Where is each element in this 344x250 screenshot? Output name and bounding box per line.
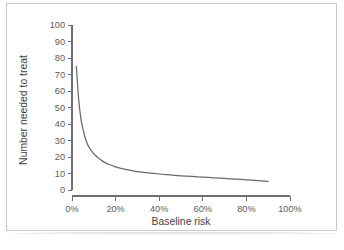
y-tick-label: 30 — [55, 136, 65, 146]
x-tick-label: 20% — [106, 204, 124, 214]
figure-root: 0102030405060708090100 0%20%40%60%80%100… — [0, 0, 344, 250]
y-tick-label: 0 — [60, 185, 65, 195]
x-tick-label: 100% — [278, 204, 302, 214]
x-tick-label: 0% — [65, 204, 78, 214]
x-axis-title: Baseline risk — [152, 216, 212, 227]
y-tick-label: 100 — [50, 20, 65, 30]
chart-plot: 0102030405060708090100 0%20%40%60%80%100… — [0, 0, 344, 250]
x-axis: 0%20%40%60%80%100% — [65, 196, 301, 214]
y-tick-label: 80 — [55, 53, 65, 63]
y-tick-label: 20 — [55, 152, 65, 162]
y-tick-label: 40 — [55, 119, 65, 129]
y-tick-label: 50 — [55, 103, 65, 113]
y-tick-label: 90 — [55, 37, 65, 47]
y-axis: 0102030405060708090100 — [50, 20, 72, 195]
x-tick-label: 60% — [194, 204, 212, 214]
y-tick-label: 70 — [55, 70, 65, 80]
x-tick-label: 40% — [150, 204, 168, 214]
y-axis-title: Number needed to treat — [18, 55, 29, 165]
data-line-number-needed-to-treat — [76, 66, 268, 181]
x-tick-label: 80% — [237, 204, 255, 214]
y-tick-label: 10 — [55, 169, 65, 179]
y-tick-label: 60 — [55, 86, 65, 96]
